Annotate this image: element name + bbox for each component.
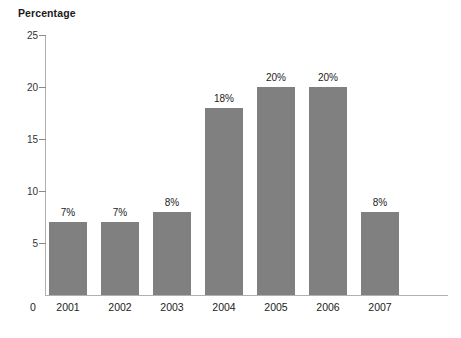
bar bbox=[205, 108, 243, 295]
x-axis-origin-label: 0 bbox=[25, 301, 41, 313]
bar-chart: Percentage 0510152025 7%7%8%18%20%20%8% … bbox=[0, 0, 461, 338]
bar-value-label: 18% bbox=[194, 93, 254, 104]
bar-value-label: 8% bbox=[142, 197, 202, 208]
bar bbox=[153, 212, 191, 295]
y-axis-tick-label: 25 bbox=[4, 30, 38, 41]
bar-value-label: 20% bbox=[246, 72, 306, 83]
y-axis-title: Percentage bbox=[18, 7, 76, 19]
bar-value-label: 7% bbox=[38, 207, 98, 218]
bar bbox=[309, 87, 347, 295]
bar-value-label: 8% bbox=[350, 197, 410, 208]
y-axis-tick-label: 5 bbox=[4, 238, 38, 249]
x-axis-tick-label: 2007 bbox=[345, 301, 415, 313]
x-axis-line bbox=[45, 295, 448, 296]
y-axis-tick-label: 20 bbox=[4, 82, 38, 93]
bar bbox=[101, 222, 139, 295]
bar-value-label: 20% bbox=[298, 72, 358, 83]
bar-value-label: 7% bbox=[90, 207, 150, 218]
y-axis-tick-label: 15 bbox=[4, 134, 38, 145]
bar bbox=[49, 222, 87, 295]
bar bbox=[361, 212, 399, 295]
bar bbox=[257, 87, 295, 295]
y-axis-tick-label: 10 bbox=[4, 186, 38, 197]
